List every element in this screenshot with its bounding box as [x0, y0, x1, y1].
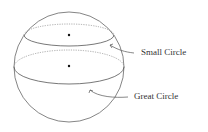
great-circle-label: Great Circle — [134, 91, 178, 101]
small-circle-label: Small Circle — [141, 47, 186, 57]
great-circle-front — [14, 67, 124, 84]
great-circle-back — [14, 50, 124, 67]
sphere-center-dot — [68, 65, 70, 67]
small-circle-center-dot — [68, 34, 70, 36]
great-circle-arrow — [90, 90, 128, 97]
sphere-diagram — [0, 0, 208, 132]
small-circle-back — [24, 24, 114, 35]
small-circle-front — [24, 35, 114, 46]
